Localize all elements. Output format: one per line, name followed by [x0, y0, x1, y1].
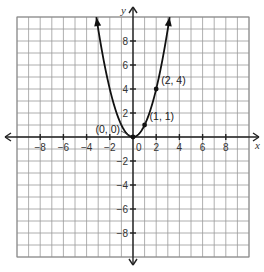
y-axis-label: y [120, 4, 126, 16]
y-tick-label: 8 [122, 36, 128, 47]
x-tick-label: −8 [34, 142, 46, 153]
parabola-chart: xy −8−6−4−22468−8−6−4−224680 (0, 0)(1, 1… [0, 0, 264, 272]
y-tick-label: 2 [122, 108, 128, 119]
curve-right-arrow-icon [165, 17, 172, 26]
y-tick-label: −4 [117, 180, 129, 191]
data-point [131, 135, 136, 140]
y-tick-label: 6 [122, 60, 128, 71]
x-tick-label: 6 [200, 142, 206, 153]
curve-left-arrow-icon [94, 17, 101, 26]
y-tick-label: −6 [117, 204, 129, 215]
point-label: (0, 0) [95, 123, 120, 135]
x-tick-label: 4 [177, 142, 183, 153]
x-tick-label: −2 [104, 142, 116, 153]
y-tick-label: −8 [117, 228, 129, 239]
data-point [154, 87, 159, 92]
point-label: (1, 1) [150, 110, 175, 122]
x-tick-label: −4 [81, 142, 93, 153]
data-point [142, 123, 147, 128]
y-tick-label: 4 [122, 84, 128, 95]
point-label: (2, 4) [161, 74, 186, 86]
x-axis-label: x [254, 139, 260, 151]
axes: xy [5, 4, 260, 265]
origin-label: 0 [136, 142, 142, 153]
x-tick-label: 2 [153, 142, 159, 153]
y-tick-label: −2 [117, 156, 129, 167]
x-tick-label: −6 [58, 142, 70, 153]
x-tick-label: 8 [223, 142, 229, 153]
